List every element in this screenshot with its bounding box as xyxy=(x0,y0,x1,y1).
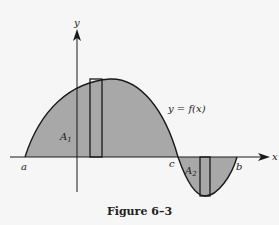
point-a-label: a xyxy=(21,161,27,172)
figure-caption: Figure 6–3 xyxy=(0,205,279,218)
point-c-label: c xyxy=(169,158,175,169)
y-axis-label: y xyxy=(73,17,80,28)
point-b-label: b xyxy=(236,161,242,172)
function-label: y = f(x) xyxy=(167,103,206,114)
x-axis-label: x xyxy=(272,151,278,162)
figure-diagram: y x a c b y = f(x) A1 A2 xyxy=(0,0,279,225)
